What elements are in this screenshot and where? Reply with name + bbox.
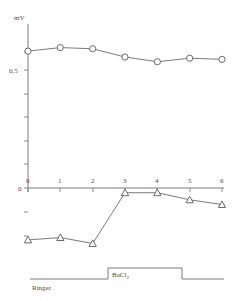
y-tick-label-0: 0 — [18, 185, 22, 193]
y-tick-label-0-5: 0.5 — [9, 67, 18, 75]
protocol-label-bacl2-subscript: 2 — [126, 275, 129, 280]
y-axis-ticks — [24, 52, 28, 236]
x-tick-label-0: 0 — [26, 177, 30, 185]
chart-figure: mV 0.5 0 0 1 2 3 4 5 6 — [0, 0, 236, 301]
x-tick-label-5: 5 — [188, 177, 192, 185]
protocol-label-bacl2: BaCl2 — [112, 271, 129, 280]
data-point-circle — [57, 44, 63, 50]
data-point-circle — [90, 46, 96, 52]
data-point-triangle — [57, 234, 64, 241]
x-tick-label-6: 6 — [220, 177, 224, 185]
protocol-label-bacl2-main: BaCl — [112, 271, 126, 279]
y-axis-label: mV — [14, 14, 25, 22]
series-line-lower-triangles — [28, 193, 222, 244]
data-point-circle — [187, 55, 193, 61]
x-tick-label-4: 4 — [155, 177, 159, 185]
series-markers-upper-circles — [25, 44, 225, 64]
data-point-circle — [219, 56, 225, 62]
x-tick-label-3: 3 — [123, 177, 127, 185]
x-tick-label-2: 2 — [91, 177, 95, 185]
data-point-circle — [122, 54, 128, 60]
data-point-circle — [25, 48, 31, 54]
data-point-circle — [154, 59, 160, 65]
protocol-label-ringer: Ringer — [32, 284, 52, 292]
chart-plot-area: mV 0.5 0 0 1 2 3 4 5 6 — [0, 0, 236, 301]
x-tick-label-1: 1 — [58, 177, 62, 185]
